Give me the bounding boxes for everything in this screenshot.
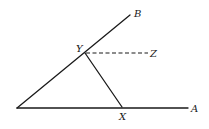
label-b: B xyxy=(133,8,141,19)
label-z: Z xyxy=(149,48,158,59)
label-x: X xyxy=(118,111,127,122)
segment-yx xyxy=(85,53,122,107)
label-a: A xyxy=(190,103,198,114)
label-y: Y xyxy=(76,43,84,54)
geometry-diagram: B Y Z X A xyxy=(0,0,209,129)
